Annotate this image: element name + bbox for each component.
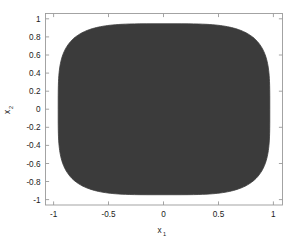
y-tick-label: -0.8: [26, 178, 41, 187]
y-axis-title-subscript: 2: [8, 106, 14, 109]
y-axis-title: x 2: [3, 106, 14, 114]
y-tick-label: -0.4: [26, 141, 41, 150]
y-tick-label: -0.6: [26, 160, 41, 169]
y-tick-labels: 1 0.8 0.6 0.4 0.2 0 -0.2 -0.4 -0.6 -0.8 …: [26, 15, 41, 205]
x-tick-label: 0.5: [213, 210, 225, 219]
y-tick-label: -1: [33, 196, 41, 205]
x-tick-label: 1: [271, 210, 276, 219]
y-tick-label: 0.2: [29, 87, 41, 96]
plot-svg: -1 -0.5 0 0.5 1 1 0.8 0.6 0.4 0.2 0 -0.2…: [0, 0, 298, 243]
x-axis-title-subscript: 1: [163, 231, 166, 237]
y-tick-label: -0.2: [26, 123, 41, 132]
feasible-region: [58, 24, 270, 195]
figure-canvas: -1 -0.5 0 0.5 1 1 0.8 0.6 0.4 0.2 0 -0.2…: [0, 0, 298, 243]
y-tick-label: 0.4: [29, 69, 41, 78]
x-axis-title-text: x: [157, 226, 161, 235]
y-axis-title-text: x: [3, 110, 12, 114]
y-tick-label: 0.6: [29, 51, 41, 60]
x-tick-labels: -1 -0.5 0 0.5 1: [50, 210, 276, 219]
y-tick-label: 0.8: [29, 33, 41, 42]
x-tick-label: -0.5: [101, 210, 116, 219]
x-axis-title: x 1: [157, 226, 166, 237]
y-tick-label: 0: [36, 105, 41, 114]
x-tick-label: 0: [161, 210, 166, 219]
y-tick-label: 1: [36, 15, 41, 24]
x-tick-label: -1: [50, 210, 58, 219]
